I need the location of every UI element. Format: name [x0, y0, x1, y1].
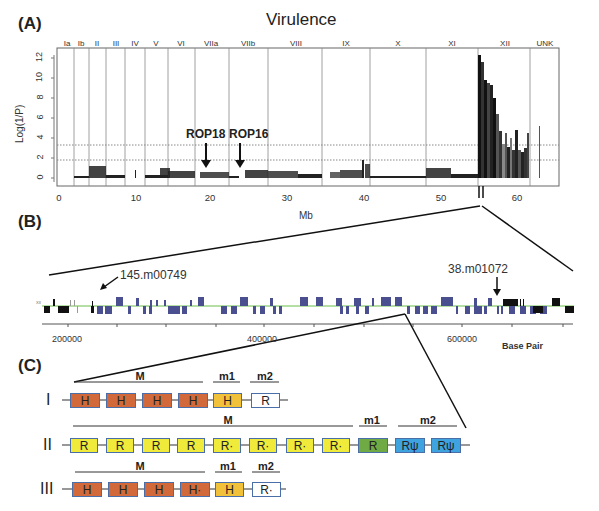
gene-label-38-m01072: 38.m01072: [448, 262, 508, 276]
domain-box: R: [358, 438, 388, 453]
domain-box: R·: [252, 482, 281, 497]
box-text: H: [81, 394, 90, 408]
panel-b-label: (B): [18, 212, 42, 232]
box-text: R·: [330, 439, 343, 453]
group-label-m2: m2: [254, 460, 278, 472]
lod-bars-xii: [478, 55, 529, 178]
group-label-m2: m2: [253, 370, 277, 382]
y-tick-10: 10: [34, 72, 44, 82]
box-text: R: [261, 394, 270, 408]
box-text: R: [369, 439, 378, 453]
genes-blue-bottom: [97, 306, 547, 314]
domain-box: H·: [180, 482, 210, 497]
chrom-label-II: II: [95, 39, 99, 48]
domain-box: H: [215, 482, 244, 497]
chrom-label-Ib: Ib: [78, 39, 85, 48]
y-tick-8: 8: [35, 94, 45, 99]
lod-bars-background: [74, 160, 478, 178]
domain-box: H: [70, 393, 100, 408]
box-text: Rψ: [401, 439, 418, 453]
gene-label-145-m00749: 145.m00749: [120, 268, 187, 282]
group-label-M: M: [130, 370, 150, 382]
box-text: H: [189, 394, 198, 408]
domain-box: R·: [322, 438, 350, 453]
box-text: H: [117, 394, 126, 408]
chrom-label-XI: XI: [448, 39, 456, 48]
rop16-label: ROP16: [229, 127, 268, 141]
y-tick-12: 12: [34, 52, 44, 62]
domain-box: R: [251, 393, 280, 408]
x-axis-title: Mb: [299, 210, 313, 221]
box-text: R: [80, 439, 89, 453]
group-label-M: M: [218, 414, 238, 426]
domain-box: H: [213, 393, 242, 408]
zoom-line-left: [49, 206, 480, 275]
domain-box: Rψ: [395, 438, 425, 453]
domain-box: R: [106, 438, 134, 453]
bp-tick-400000: 400000: [247, 334, 277, 344]
bp-tick-600000: 600000: [447, 334, 477, 344]
group-label-m1: m1: [216, 460, 240, 472]
group-label-m2: m2: [416, 414, 440, 426]
box-text: R·: [221, 439, 234, 453]
group-label-m1: m1: [360, 414, 384, 426]
panel-c-label: (C): [18, 356, 42, 376]
domain-box: R: [177, 438, 205, 453]
y-axis-title: Log(1/P): [14, 105, 25, 143]
chromosome-dividers: [74, 48, 530, 186]
genes-blue-top: [116, 297, 492, 306]
chrom-label-IV: IV: [131, 39, 139, 48]
row-label-III: III: [40, 480, 53, 498]
chrom-label-VIIa: VIIa: [204, 39, 218, 48]
x-tick-30: 30: [282, 192, 293, 203]
chrom-label-X: X: [395, 39, 400, 48]
x-tick-60: 60: [512, 192, 523, 203]
chrom-tag: XII: [36, 300, 41, 305]
domain-box: R·: [286, 438, 314, 453]
group-label-m1: m1: [215, 370, 239, 382]
box-text: R: [116, 439, 125, 453]
y-tick-0: 0: [35, 174, 45, 179]
domain-box: R·: [213, 438, 241, 453]
domain-box: R·: [249, 438, 277, 453]
lod-bar-unk: [539, 126, 540, 178]
box-text: R·: [257, 439, 270, 453]
domain-box: R: [142, 438, 170, 453]
box-text: R·: [294, 439, 307, 453]
chrom-label-III: III: [113, 39, 120, 48]
box-text: R: [152, 439, 161, 453]
box-text: H: [153, 394, 162, 408]
domain-box: H: [144, 482, 174, 497]
y-tick-4: 4: [35, 134, 45, 139]
chrom-label-VIII: VIII: [290, 39, 302, 48]
rop18-label: ROP18: [186, 127, 225, 141]
domain-box: R: [70, 438, 98, 453]
domain-box: H: [72, 482, 102, 497]
zoom-bracket: [479, 186, 483, 198]
box-text: R: [187, 439, 196, 453]
x-tick-0: 0: [56, 192, 61, 203]
y-tick-2: 2: [35, 154, 45, 159]
arrow-145: [104, 277, 118, 287]
panel-a-plot: [0, 0, 599, 511]
chrom-label-Ia: Ia: [64, 39, 71, 48]
box-text: H: [119, 483, 128, 497]
chrom-label-VI: VI: [177, 39, 185, 48]
bp-axis-title: Base Pair: [502, 341, 543, 351]
box-text: H: [225, 483, 234, 497]
x-tick-10: 10: [131, 192, 142, 203]
chrom-label-V: V: [153, 39, 158, 48]
chrom-label-VIIb: VIIb: [241, 39, 255, 48]
domain-box: H: [106, 393, 136, 408]
group-label-M: M: [130, 460, 150, 472]
row-label-II: II: [43, 436, 52, 454]
box-text: H·: [189, 483, 202, 497]
row-label-I: I: [46, 391, 50, 409]
box-text: Rψ: [437, 439, 454, 453]
box-text: H: [155, 483, 164, 497]
chrom-label-IX: IX: [342, 39, 350, 48]
x-tick-50: 50: [436, 192, 447, 203]
box-text: H: [83, 483, 92, 497]
domain-box: H: [142, 393, 172, 408]
zoom-line-c-right: [405, 314, 466, 428]
